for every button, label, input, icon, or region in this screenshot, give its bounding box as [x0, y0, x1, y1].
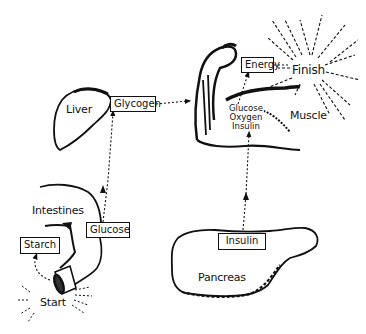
glycogen-box: Glycogen	[110, 96, 156, 112]
arrow-glucose-to-glycogen	[103, 113, 113, 222]
muscle-label: Muscle	[290, 110, 327, 122]
arrow-start-to-starch	[35, 256, 50, 280]
liver-shape	[54, 89, 111, 150]
insulin-box: Insulin	[218, 233, 266, 250]
intestine-opening	[51, 266, 76, 296]
metabolism-diagram: Liver Intestines Pancreas Muscle Start F…	[0, 0, 366, 334]
liver-label: Liver	[66, 104, 92, 116]
arrow-muscle-to-energy	[238, 74, 248, 104]
pancreas-label: Pancreas	[198, 272, 246, 284]
finish-label: Finish	[292, 64, 325, 76]
starch-box: Starch	[20, 237, 60, 254]
diagram-artwork	[0, 0, 366, 334]
start-label: Start	[40, 297, 66, 309]
muscle-inputs-list: Glucose Oxygen Insulin	[228, 104, 264, 131]
arrow-pancreas-to-muscle	[243, 134, 249, 230]
intestines-label: Intestines	[32, 205, 84, 217]
glucose-box: Glucose	[86, 222, 130, 238]
energy-box: Energy	[241, 57, 274, 73]
muscle-input-insulin: Insulin	[229, 122, 263, 131]
